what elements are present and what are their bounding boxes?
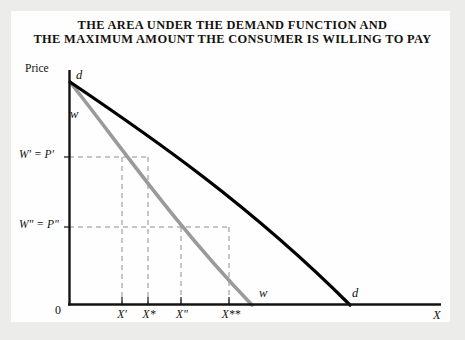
- origin-label: 0: [55, 303, 61, 318]
- x-tick-label-x-star: X*: [143, 308, 156, 320]
- y-tick-label-w-double-prime: W" = P": [19, 218, 59, 230]
- x-tick-label-x-double-prime: X": [176, 308, 188, 320]
- x-axis-title: X: [433, 308, 441, 323]
- demand-curve-label-end: d: [352, 286, 358, 301]
- chart-plot: [0, 0, 465, 340]
- demand-curve-label-top: d: [76, 68, 82, 83]
- x-tick-label-x-double-star: X**: [222, 308, 241, 320]
- willingness-curve-label-end: w: [259, 286, 267, 301]
- y-axis-title: Price: [25, 62, 49, 74]
- willingness-curve-label-top: w: [70, 107, 78, 122]
- figure-container: THE AREA UNDER THE DEMAND FUNCTION AND T…: [0, 0, 465, 340]
- demand-curve: [70, 82, 350, 305]
- x-tick-label-x-prime: X': [117, 308, 126, 320]
- y-tick-label-w-prime: W' = P': [19, 148, 54, 160]
